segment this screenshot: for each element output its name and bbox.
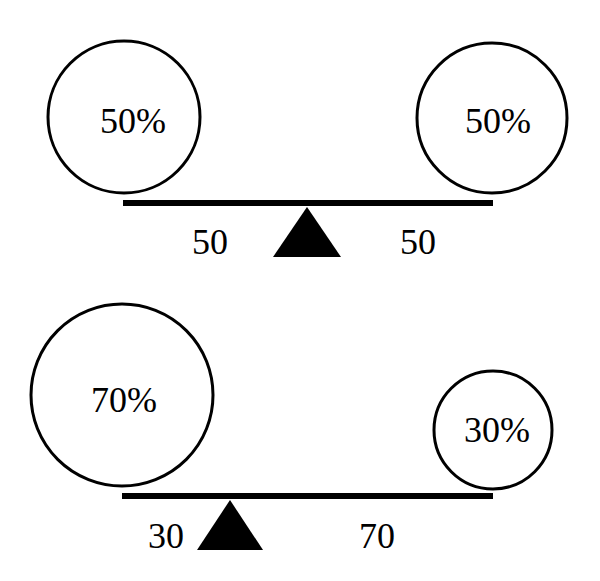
left-distance-label: 30: [148, 516, 184, 556]
right-weight-label: 50%: [465, 101, 531, 141]
unbalanced-seesaw: 70% 30% 30 70: [31, 304, 552, 556]
left-distance-label: 50: [192, 222, 228, 262]
beam: [123, 200, 493, 206]
beam: [122, 493, 493, 499]
balanced-seesaw: 50% 50% 50 50: [48, 41, 567, 262]
fulcrum-triangle: [197, 500, 263, 550]
fulcrum-triangle: [273, 207, 341, 257]
right-weight-label: 30%: [464, 410, 530, 450]
right-distance-label: 50: [400, 222, 436, 262]
right-distance-label: 70: [359, 516, 395, 556]
seesaw-diagrams: 50% 50% 50 50 70% 30% 30 70: [0, 0, 600, 581]
left-weight-label: 70%: [91, 380, 157, 420]
left-weight-label: 50%: [100, 101, 166, 141]
